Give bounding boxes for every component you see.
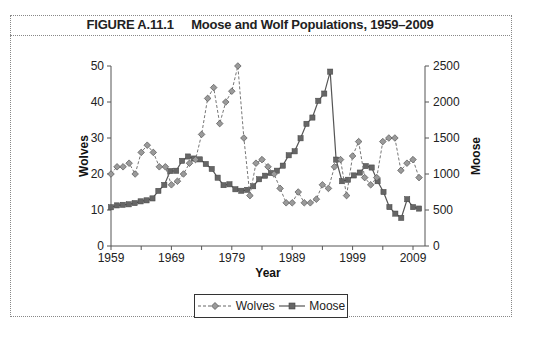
moose-marker xyxy=(162,182,167,187)
moose-marker xyxy=(262,173,267,178)
moose-marker xyxy=(168,168,173,173)
moose-marker xyxy=(351,173,356,178)
moose-marker xyxy=(298,136,303,141)
wolves-marker xyxy=(277,185,284,192)
moose-marker xyxy=(156,188,161,193)
moose-marker xyxy=(209,166,214,171)
legend-item-wolves: Wolves xyxy=(197,299,275,313)
wolves-marker xyxy=(120,164,127,171)
wolves-marker xyxy=(289,200,296,207)
moose-marker xyxy=(126,202,131,207)
right-tick-label: 1000 xyxy=(433,167,460,181)
right-tick-label: 2000 xyxy=(433,95,460,109)
moose-marker xyxy=(215,175,220,180)
moose-marker xyxy=(179,158,184,163)
moose-marker xyxy=(310,115,315,120)
wolves-marker xyxy=(168,182,175,189)
wolves-marker xyxy=(222,99,229,106)
wolves-marker xyxy=(295,189,302,196)
wolves-marker xyxy=(108,171,115,178)
moose-marker xyxy=(233,187,238,192)
wolves-marker xyxy=(410,156,417,163)
moose-marker xyxy=(411,205,416,210)
wolves-marker xyxy=(210,84,217,91)
wolves-marker xyxy=(392,135,399,142)
wolves-marker xyxy=(144,142,151,149)
wolves-marker xyxy=(313,196,320,203)
moose-series xyxy=(108,69,421,221)
moose-marker xyxy=(405,197,410,202)
right-tick-label: 1500 xyxy=(433,131,460,145)
x-tick-label: 1999 xyxy=(339,251,366,265)
moose-marker xyxy=(387,205,392,210)
moose-marker xyxy=(339,179,344,184)
moose-marker xyxy=(144,198,149,203)
wolves-marker xyxy=(247,192,254,199)
x-axis-title: Year xyxy=(255,266,281,280)
wolves-marker xyxy=(180,171,187,178)
moose-marker xyxy=(185,154,190,159)
moose-marker xyxy=(328,69,333,74)
moose-marker xyxy=(369,165,374,170)
wolves-marker xyxy=(204,95,211,102)
moose-marker xyxy=(203,161,208,166)
moose-marker xyxy=(345,177,350,182)
moose-marker xyxy=(132,200,137,205)
moose-marker xyxy=(357,170,362,175)
wolves-marker xyxy=(343,192,350,199)
legend: Wolves Moose xyxy=(194,294,348,318)
chart: 0102030405005001000150020002500195919691… xyxy=(0,0,554,341)
wolves-marker xyxy=(307,200,314,207)
moose-marker xyxy=(393,211,398,216)
right-axis-title: Moose xyxy=(469,137,483,175)
moose-marker xyxy=(381,189,386,194)
moose-marker xyxy=(150,196,155,201)
moose-legend-icon xyxy=(278,301,306,311)
wolves-marker xyxy=(349,153,356,160)
x-tick-label: 1989 xyxy=(279,251,306,265)
moose-marker xyxy=(399,215,404,220)
wolves-marker xyxy=(198,131,205,138)
wolves-marker xyxy=(216,120,223,127)
wolves-marker xyxy=(416,174,423,181)
moose-marker xyxy=(316,98,321,103)
wolves-marker xyxy=(229,88,236,95)
left-tick-label: 20 xyxy=(91,167,105,181)
moose-marker xyxy=(322,91,327,96)
legend-label-moose: Moose xyxy=(309,299,345,313)
wolves-marker xyxy=(253,160,260,167)
moose-marker xyxy=(120,202,125,207)
legend-label-wolves: Wolves xyxy=(236,299,275,313)
moose-marker xyxy=(286,153,291,158)
left-tick-label: 40 xyxy=(91,95,105,109)
wolves-marker xyxy=(235,63,242,70)
wolves-marker xyxy=(355,138,362,145)
left-tick-label: 30 xyxy=(91,131,105,145)
moose-marker xyxy=(416,206,421,211)
moose-marker xyxy=(174,168,179,173)
moose-marker xyxy=(227,182,232,187)
wolves-marker xyxy=(126,160,133,167)
moose-marker xyxy=(138,199,143,204)
legend-item-moose: Moose xyxy=(278,299,345,313)
moose-marker xyxy=(114,203,119,208)
x-tick-label: 1979 xyxy=(218,251,245,265)
moose-marker xyxy=(239,188,244,193)
left-tick-label: 50 xyxy=(91,59,105,73)
moose-marker xyxy=(108,205,113,210)
wolves-marker xyxy=(325,185,332,192)
wolves-legend-icon xyxy=(197,301,233,311)
right-tick-label: 2500 xyxy=(433,59,460,73)
wolves-marker xyxy=(132,171,139,178)
wolves-marker xyxy=(404,160,411,167)
right-tick-label: 0 xyxy=(433,239,440,253)
moose-marker xyxy=(304,121,309,126)
moose-marker xyxy=(292,149,297,154)
moose-marker xyxy=(256,177,261,182)
wolves-marker xyxy=(319,182,326,189)
wolves-series xyxy=(108,63,423,206)
right-tick-label: 500 xyxy=(433,203,453,217)
x-tick-label: 2009 xyxy=(400,251,427,265)
left-axis-title: Wolves xyxy=(77,135,91,177)
axis-labels: 0102030405005001000150020002500195919691… xyxy=(77,59,483,280)
